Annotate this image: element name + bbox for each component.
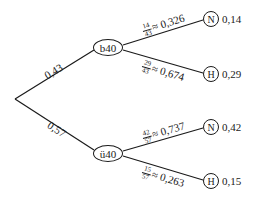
joint-prob-b40-n: 0,14 (222, 13, 241, 25)
leaf-b40-n: N (203, 11, 219, 27)
joint-prob-u40-n: 0,42 (222, 121, 241, 133)
joint-prob-u40-h: 0,15 (222, 175, 241, 187)
joint-prob-b40-h: 0,29 (222, 68, 241, 80)
node-u40: ü40 (93, 145, 123, 162)
node-b40: b40 (93, 39, 123, 56)
leaf-u40-h: H (203, 173, 219, 189)
tree-edges (0, 0, 259, 198)
leaf-u40-n: N (203, 119, 219, 135)
leaf-b40-h: H (203, 66, 219, 82)
